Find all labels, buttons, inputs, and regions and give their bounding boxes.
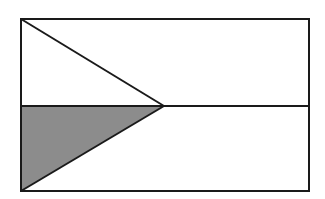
flag-diagram xyxy=(0,0,325,199)
